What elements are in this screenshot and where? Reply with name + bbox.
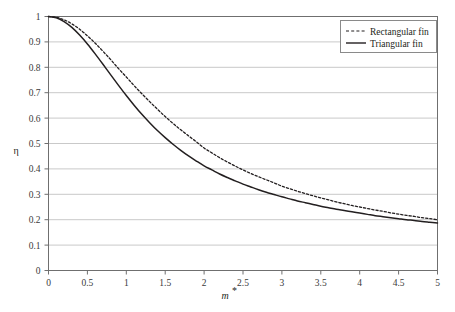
x-tick-label: 0 xyxy=(46,278,51,288)
x-tick-label: 1 xyxy=(124,278,129,288)
legend-label-rectangular-fin: Rectangular fin xyxy=(370,27,429,37)
y-tick-label: 0.4 xyxy=(29,164,41,174)
x-tick-label: 3.5 xyxy=(315,278,327,288)
x-tick-label: 3 xyxy=(280,278,285,288)
y-tick-label: 0.2 xyxy=(29,215,41,225)
x-tick-label: 4.5 xyxy=(393,278,405,288)
y-tick-label: 0 xyxy=(36,266,41,276)
y-tick-label: 0.5 xyxy=(29,139,41,149)
y-tick-label: 0.3 xyxy=(29,190,41,200)
x-tick-label: 2 xyxy=(202,278,207,288)
y-tick-label: 0.8 xyxy=(29,63,41,73)
x-tick-label: 4 xyxy=(357,278,362,288)
legend[interactable]: Rectangular fin Triangular fin xyxy=(341,21,437,53)
legend-label-triangular-fin: Triangular fin xyxy=(370,39,423,49)
y-axis-title: η xyxy=(13,145,18,156)
y-tick-label: 0.9 xyxy=(29,37,41,47)
x-tick-label: 5 xyxy=(435,278,440,288)
x-axis-title-superscript: * xyxy=(232,285,237,296)
x-tick-label: 0.5 xyxy=(81,278,93,288)
x-tick-label: 1.5 xyxy=(159,278,171,288)
y-tick-label: 0.7 xyxy=(29,88,41,98)
y-tick-label: 0.6 xyxy=(29,114,41,124)
chart-canvas: 00.511.522.533.544.55 00.10.20.30.40.50.… xyxy=(0,0,455,312)
x-axis-title-base: m xyxy=(221,290,228,301)
x-tick-label: 2.5 xyxy=(237,278,249,288)
y-tick-label: 1 xyxy=(36,12,41,22)
fin-efficiency-chart: 00.511.522.533.544.55 00.10.20.30.40.50.… xyxy=(0,0,455,312)
y-tick-label: 0.1 xyxy=(29,241,41,251)
